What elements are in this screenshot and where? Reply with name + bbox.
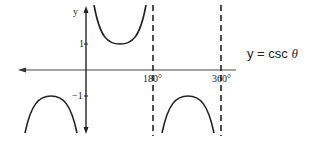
curve-branch-neg180-0	[25, 96, 77, 133]
y-axis-up-arrow-icon	[84, 6, 89, 13]
equation-variable: θ	[291, 46, 297, 61]
y-axis-label: y	[73, 7, 78, 17]
x-tick-label-360: 360°	[212, 74, 231, 84]
x-axis-arrow-icon	[18, 68, 26, 73]
equation-label: y = csc θ	[247, 46, 298, 62]
curve-branch-0-180	[94, 5, 146, 44]
y-axis-down-arrow-icon	[84, 127, 89, 134]
x-tick-label-180: 180°	[143, 74, 162, 84]
y-tick-label-neg1: −1	[72, 91, 83, 101]
equation-prefix: y = csc	[247, 46, 291, 61]
curve-branch-180-360	[162, 96, 214, 133]
y-tick-label-1: 1	[79, 39, 84, 49]
csc-graph	[0, 0, 317, 141]
